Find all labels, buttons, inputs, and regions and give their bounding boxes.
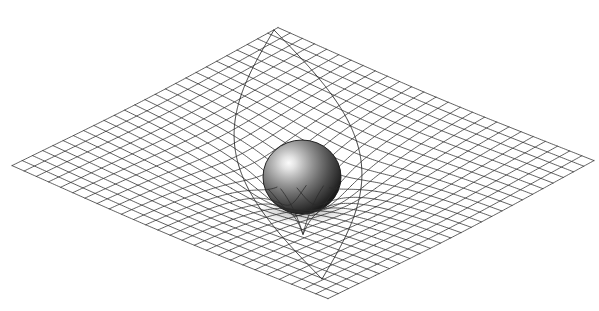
figure-canvas: Spacetime curvature around a massive bod… [0,0,599,311]
spacetime-diagram [0,0,599,311]
